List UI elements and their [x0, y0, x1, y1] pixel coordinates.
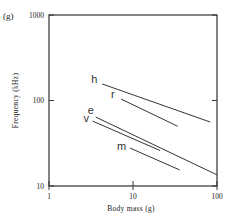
series-label-h: h — [91, 73, 97, 85]
series-label-m: m — [117, 140, 126, 152]
plot-frame — [49, 15, 217, 186]
chart-plot: 110100101001000Body mass (g)Frequency (k… — [0, 0, 233, 224]
series-label-v: v — [84, 112, 90, 124]
series-line-r — [121, 99, 178, 126]
y-tick-label: 1000 — [29, 11, 44, 20]
series-label-r: r — [111, 88, 115, 100]
y-axis-title: Frequency (kHz) — [11, 73, 20, 129]
series-line-m — [130, 148, 180, 170]
chart-panel: 110100101001000Body mass (g)Frequency (k… — [0, 0, 233, 224]
x-tick-label: 100 — [211, 192, 223, 201]
x-tick-label: 10 — [129, 192, 137, 201]
series-line-v — [93, 121, 161, 150]
panel-label: (g) — [3, 11, 14, 21]
x-axis-title: Body mass (g) — [107, 204, 155, 213]
y-tick-label: 100 — [33, 96, 45, 105]
y-tick-label: 10 — [37, 182, 45, 191]
x-tick-label: 1 — [47, 192, 51, 201]
series-line-e — [96, 117, 217, 175]
